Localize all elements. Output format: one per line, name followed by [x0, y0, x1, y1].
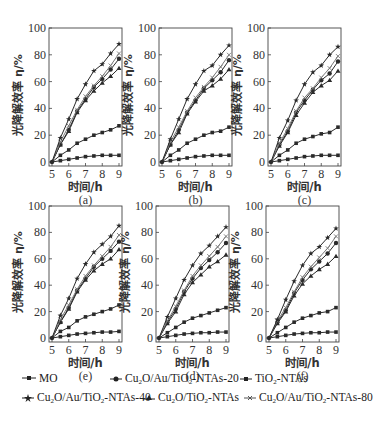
svg-text:60: 60	[141, 252, 153, 266]
svg-text:80: 80	[251, 225, 263, 239]
triangle-marker-icon	[143, 393, 155, 403]
legend-item-au40: Cu2O/Au/TiO2-NTAs-40	[22, 391, 151, 405]
svg-text:8: 8	[99, 343, 105, 357]
legend-label: MO	[39, 372, 58, 384]
square-marker-icon	[22, 374, 36, 382]
svg-text:0: 0	[147, 331, 153, 345]
svg-text:80: 80	[253, 48, 265, 62]
legend-label: Cu2O/Au/TiO2-NTAs-40	[37, 391, 151, 405]
svg-text:8: 8	[209, 167, 215, 181]
circle-marker-icon	[110, 375, 122, 383]
series-cu2o-tio2-ntas	[162, 67, 232, 162]
svg-text:光降解效率 η/%: 光降解效率 η/%	[11, 54, 25, 137]
svg-text:5: 5	[266, 343, 272, 357]
svg-text:9: 9	[226, 167, 232, 181]
series-cu2o-au-tio2-ntas-20	[269, 241, 338, 338]
svg-text:80: 80	[34, 48, 46, 62]
svg-text:60: 60	[144, 75, 156, 89]
series-cu2o-au-tio2-ntas-20	[162, 58, 231, 162]
chart-panel-d: 02040608010056789时间/h(d)光降解效率 η/%	[118, 199, 229, 383]
series-mo	[271, 154, 340, 163]
svg-text:40: 40	[34, 101, 46, 115]
svg-text:0: 0	[40, 155, 46, 169]
svg-text:0: 0	[150, 155, 156, 169]
svg-text:光降解效率 η/%: 光降解效率 η/%	[11, 231, 25, 314]
legend-label: TiO2-NTAs	[255, 372, 308, 386]
svg-text:5: 5	[49, 343, 55, 357]
svg-text:时间/h: 时间/h	[178, 180, 212, 194]
svg-text:(a): (a)	[79, 193, 92, 207]
svg-text:40: 40	[141, 278, 153, 292]
legend-item-au20: Cu2O/Au/TiO2-NTAs-20	[110, 372, 239, 386]
legend-item-au80: Cu2O/Au/TiO2-NTAs-80	[244, 391, 373, 405]
svg-text:40: 40	[251, 278, 263, 292]
svg-text:20: 20	[253, 128, 265, 142]
svg-text:5: 5	[268, 167, 274, 181]
svg-text:9: 9	[335, 167, 341, 181]
legend-label: Cu2O/TiO2-NTAs	[158, 391, 239, 405]
svg-text:80: 80	[34, 225, 46, 239]
series-cu2o-au-tio2-ntas-20	[271, 59, 340, 162]
svg-text:40: 40	[144, 101, 156, 115]
svg-text:7: 7	[190, 343, 196, 357]
series-cu2o-au-tio2-ntas-20	[159, 241, 228, 338]
svg-text:5: 5	[156, 343, 162, 357]
svg-text:20: 20	[251, 305, 263, 319]
svg-text:6: 6	[176, 167, 182, 181]
svg-text:7: 7	[193, 167, 199, 181]
svg-text:60: 60	[34, 75, 46, 89]
svg-text:20: 20	[144, 128, 156, 142]
svg-text:8: 8	[318, 167, 324, 181]
series-mo	[162, 154, 231, 163]
svg-text:6: 6	[283, 343, 289, 357]
chart-panel-b: 02040608010056789时间/h(b)光降解效率 η/%	[121, 21, 232, 207]
series-cu2o-tio2-ntas	[52, 247, 122, 338]
svg-text:(c): (c)	[298, 193, 311, 207]
svg-text:6: 6	[66, 343, 72, 357]
svg-text:7: 7	[83, 343, 89, 357]
svg-text:100: 100	[247, 21, 265, 35]
svg-text:20: 20	[141, 305, 153, 319]
series-cu2o-tio2-ntas	[52, 66, 122, 162]
svg-text:100: 100	[245, 199, 263, 213]
square-marker-icon	[240, 375, 252, 383]
svg-text:6: 6	[66, 167, 72, 181]
series-cu2o-au-tio2-ntas-80	[271, 54, 340, 162]
series-mo	[52, 154, 121, 163]
svg-text:时间/h: 时间/h	[68, 356, 102, 370]
svg-text:时间/h: 时间/h	[175, 356, 209, 370]
svg-text:光降解效率 η/%: 光降解效率 η/%	[121, 54, 135, 137]
svg-text:0: 0	[40, 331, 46, 345]
svg-text:0: 0	[257, 331, 263, 345]
svg-text:5: 5	[159, 167, 165, 181]
svg-text:时间/h: 时间/h	[285, 356, 319, 370]
legend-item-cu2o-tio2: Cu2O/TiO2-NTAs	[143, 391, 239, 405]
svg-text:40: 40	[253, 101, 265, 115]
svg-text:100: 100	[28, 199, 46, 213]
svg-text:8: 8	[206, 343, 212, 357]
legend-item-mo: MO	[22, 372, 58, 384]
cross-marker-icon	[244, 393, 256, 403]
svg-text:100: 100	[138, 21, 156, 35]
chart-panel-e: 02040608010056789时间/h(e)光降解效率 η/%	[11, 199, 122, 383]
svg-text:8: 8	[316, 343, 322, 357]
chart-panel-f: 02040608010056789时间/h(f)光降解效率 η/%	[228, 199, 339, 383]
svg-text:40: 40	[34, 278, 46, 292]
svg-text:时间/h: 时间/h	[68, 180, 102, 194]
svg-text:9: 9	[333, 343, 339, 357]
star-marker-icon	[22, 393, 34, 403]
svg-text:9: 9	[116, 343, 122, 357]
svg-text:(b): (b)	[189, 193, 203, 207]
legend-label: Cu2O/Au/TiO2-NTAs-20	[125, 372, 239, 386]
svg-text:100: 100	[135, 199, 153, 213]
series-cu2o-au-tio2-ntas-80	[269, 234, 338, 338]
svg-text:20: 20	[34, 305, 46, 319]
svg-text:(e): (e)	[79, 369, 92, 383]
svg-text:8: 8	[99, 167, 105, 181]
svg-text:80: 80	[141, 225, 153, 239]
series-cu2o-au-tio2-ntas-80	[159, 234, 228, 338]
chart-panel-c: 02040608010056789时间/h(c)光降解效率 η/%	[230, 21, 341, 207]
svg-text:7: 7	[302, 167, 308, 181]
svg-text:5: 5	[49, 167, 55, 181]
